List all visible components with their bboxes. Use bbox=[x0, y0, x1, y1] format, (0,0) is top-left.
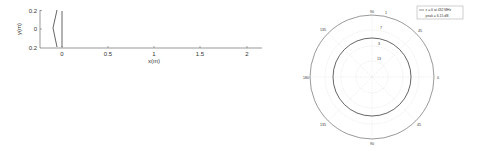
grid-spokes bbox=[310, 15, 434, 139]
y-axis-label: y(m) bbox=[16, 23, 22, 35]
x-tick-label: 1 bbox=[152, 51, 156, 57]
legend-entry: peak = 6.15 dB bbox=[426, 14, 450, 18]
bent-element-line bbox=[53, 10, 57, 47]
y-tick-label: 0.2 bbox=[29, 45, 38, 51]
figure: 0.2 0 0.2 y(m) 0 0.5 1 1.5 2 x(m) bbox=[0, 0, 480, 151]
y-tick-label: 0 bbox=[34, 26, 38, 32]
angle-label-top: 90 bbox=[370, 10, 374, 14]
angle-label-upper-left: 135 bbox=[320, 28, 326, 32]
y-tick-label: 0.2 bbox=[29, 8, 38, 14]
x-tick-label: 0.5 bbox=[104, 51, 113, 57]
x-tick-label: 2 bbox=[245, 51, 249, 57]
angle-label-bottom: 90 bbox=[370, 142, 374, 146]
radial-label: 1 bbox=[385, 11, 387, 15]
angle-label-lower-right: 45 bbox=[417, 123, 421, 127]
radial-label: 7 bbox=[380, 26, 382, 30]
angle-label-lower-left: 135 bbox=[320, 123, 326, 127]
radial-label: 3 bbox=[378, 42, 380, 46]
x-axis-label: x(m) bbox=[148, 58, 160, 64]
radial-label: 13 bbox=[377, 57, 381, 61]
geometry-plot: 0.2 0 0.2 y(m) 0 0.5 1 1.5 2 x(m) bbox=[16, 8, 262, 65]
x-tick-label: 0 bbox=[60, 51, 64, 57]
polar-plot: 90 45 0 45 90 135 180 135 1 7 3 13 z = 0… bbox=[303, 6, 463, 146]
legend: z = 0 at 432 MHz peak = 6.15 dB bbox=[417, 6, 463, 19]
angle-label-right: 0 bbox=[437, 76, 439, 80]
x-tick-label: 1.5 bbox=[196, 51, 205, 57]
legend-entry: z = 0 at 432 MHz bbox=[426, 8, 452, 12]
angle-label-left: 180 bbox=[303, 76, 309, 80]
angle-label-upper-right: 45 bbox=[418, 29, 422, 33]
